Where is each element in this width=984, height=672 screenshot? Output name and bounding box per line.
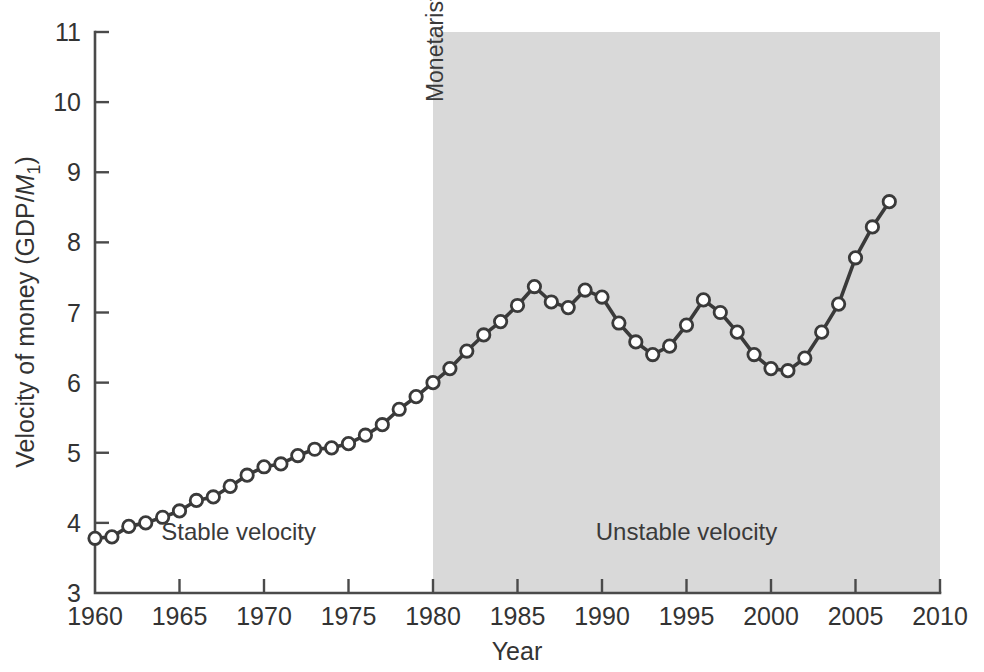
data-point-marker	[190, 494, 202, 506]
data-point-marker	[89, 532, 101, 544]
x-tick-label: 1995	[659, 602, 715, 630]
data-point-marker	[224, 480, 236, 492]
data-point-marker	[545, 296, 557, 308]
x-tick-label: 2010	[912, 602, 968, 630]
x-tick-label: 1980	[405, 602, 461, 630]
y-tick-label: 11	[55, 18, 81, 46]
data-point-marker	[714, 306, 726, 318]
y-axis-title-group: Velocity of money (GDP/M1)	[11, 156, 44, 468]
data-point-marker	[123, 520, 135, 532]
annotation-label: Unstable velocity	[596, 518, 777, 545]
x-tick-label: 1970	[236, 602, 292, 630]
data-point-marker	[241, 469, 253, 481]
data-point-marker	[106, 531, 118, 543]
y-axis-title-prefix: Velocity of money (GDP/	[11, 195, 39, 467]
data-point-marker	[731, 326, 743, 338]
y-tick-label: 5	[67, 439, 81, 467]
data-point-marker	[444, 362, 456, 374]
data-point-marker	[173, 505, 185, 517]
y-tick-label: 6	[67, 369, 81, 397]
data-point-marker	[697, 294, 709, 306]
y-tick-label: 10	[53, 88, 81, 116]
data-point-marker	[342, 437, 354, 449]
x-tick-label: 2005	[828, 602, 884, 630]
data-point-marker	[663, 340, 675, 352]
x-tick-label: 1975	[321, 602, 377, 630]
y-tick-label: 8	[67, 228, 81, 256]
x-tick-label: 1985	[490, 602, 546, 630]
data-point-marker	[630, 336, 642, 348]
data-point-marker	[376, 419, 388, 431]
data-point-marker	[748, 348, 760, 360]
annotation-label: Stable velocity	[161, 518, 316, 545]
data-point-marker	[596, 291, 608, 303]
data-point-marker	[832, 298, 844, 310]
x-tick-label: 1990	[574, 602, 630, 630]
data-point-marker	[765, 362, 777, 374]
data-point-marker	[275, 458, 287, 470]
data-point-marker	[613, 317, 625, 329]
y-tick-label: 4	[67, 509, 81, 537]
data-point-marker	[799, 352, 811, 364]
data-point-marker	[647, 348, 659, 360]
data-point-marker	[816, 326, 828, 338]
data-point-marker	[528, 280, 540, 292]
data-point-marker	[461, 345, 473, 357]
x-tick-label: 1965	[152, 602, 208, 630]
y-axis-title-suffix: )	[11, 156, 39, 164]
x-axis-title: Year	[492, 637, 543, 665]
annotation-vertical-group: Monetarist experiment	[422, 0, 448, 102]
chart-svg: 3456789101119601965197019751980198519901…	[0, 0, 984, 672]
y-tick-label: 9	[67, 158, 81, 186]
velocity-of-money-chart: 3456789101119601965197019751980198519901…	[0, 0, 984, 672]
data-point-marker	[410, 390, 422, 402]
data-point-marker	[883, 196, 895, 208]
data-point-marker	[393, 403, 405, 415]
data-point-marker	[782, 365, 794, 377]
data-point-marker	[207, 491, 219, 503]
data-point-marker	[292, 449, 304, 461]
x-tick-label: 1960	[67, 602, 123, 630]
data-point-marker	[140, 517, 152, 529]
data-point-marker	[478, 329, 490, 341]
data-point-marker	[258, 461, 270, 473]
x-tick-label: 2000	[743, 602, 799, 630]
y-axis-title-subscript: 1	[24, 165, 44, 175]
data-point-marker	[866, 221, 878, 233]
data-point-marker	[680, 319, 692, 331]
data-point-marker	[511, 299, 523, 311]
y-axis-title-italic: M	[11, 174, 39, 195]
data-point-marker	[579, 284, 591, 296]
data-point-marker	[325, 442, 337, 454]
data-point-marker	[427, 376, 439, 388]
data-point-marker	[359, 429, 371, 441]
annotation-label: Monetarist experiment	[422, 0, 448, 102]
y-tick-label: 7	[67, 299, 81, 327]
data-point-marker	[562, 301, 574, 313]
y-axis-title: Velocity of money (GDP/M1)	[11, 156, 44, 468]
data-point-marker	[494, 315, 506, 327]
data-point-marker	[849, 252, 861, 264]
data-point-marker	[309, 443, 321, 455]
